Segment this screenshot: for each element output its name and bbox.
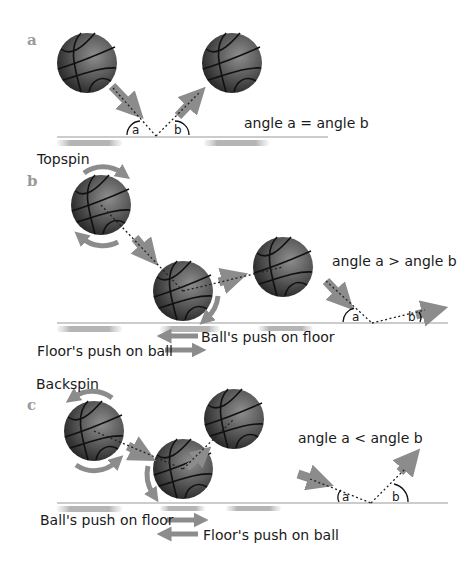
angle-b-label: b <box>174 124 182 136</box>
diagram-graphics <box>0 0 470 566</box>
panel-b-caption: angle a > angle b <box>332 254 457 268</box>
angle-b-label: b <box>408 311 416 323</box>
panel-a-label: a <box>27 33 37 48</box>
panel-c-label: c <box>27 398 36 413</box>
ball-push-label: Ball's push on floor <box>40 513 174 527</box>
angle-a-label: a <box>132 124 139 136</box>
angle-b-label: b <box>392 491 400 503</box>
panel-c-caption: angle a < angle b <box>298 431 423 445</box>
topspin-label: Topspin <box>37 152 90 166</box>
angle-a-label: a <box>342 491 349 503</box>
floor-push-label: Floor's push on ball <box>203 528 339 542</box>
backspin-label: Backspin <box>36 377 99 391</box>
panel-b-label: b <box>27 174 38 189</box>
panel-a-caption: angle a = angle b <box>244 116 369 130</box>
floor-push-label: Floor's push on ball <box>37 344 173 358</box>
angle-a-label: a <box>352 311 359 323</box>
ball-push-label: Ball's push on floor <box>201 330 335 344</box>
bounce-diagram: a a b angle a = angle b Topspin b angle … <box>0 0 470 566</box>
